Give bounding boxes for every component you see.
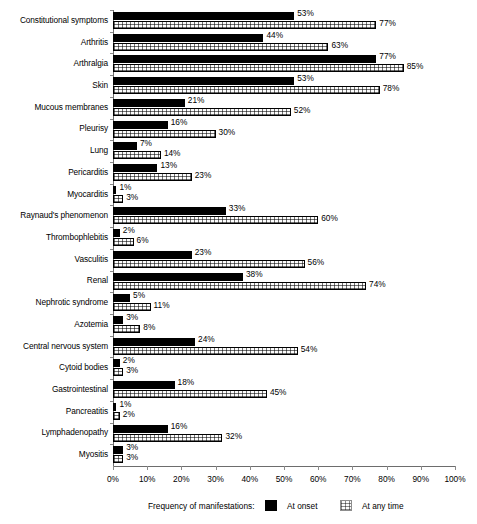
bar-value-label-at-onset: 77% bbox=[379, 52, 396, 61]
bar-value-label-at-onset: 23% bbox=[195, 248, 212, 257]
category-label: Pancreatitis bbox=[66, 407, 108, 416]
bar-at-onset bbox=[113, 381, 175, 389]
bar-at-any-time bbox=[113, 412, 120, 420]
bar-value-label-at-onset: 53% bbox=[297, 74, 314, 83]
bar-value-label-at-onset: 3% bbox=[126, 443, 138, 452]
category-label: Lung bbox=[90, 146, 108, 155]
category-label: Myocarditis bbox=[67, 190, 108, 199]
bar-at-any-time bbox=[113, 64, 404, 72]
bar-at-any-time bbox=[113, 303, 151, 311]
bar-at-onset bbox=[113, 99, 185, 107]
y-axis-tick bbox=[110, 271, 113, 272]
x-axis-tick bbox=[421, 466, 422, 470]
y-axis-tick bbox=[110, 140, 113, 141]
category-label: Skin bbox=[92, 81, 108, 90]
bar-value-label-at-any-time: 85% bbox=[407, 62, 424, 71]
bar-value-label-at-onset: 38% bbox=[246, 270, 263, 279]
legend-item-at-onset: At onset bbox=[287, 501, 317, 511]
category-label: Mucous membranes bbox=[34, 103, 108, 112]
bar-at-onset bbox=[113, 55, 376, 63]
x-axis-tick bbox=[147, 466, 148, 470]
bar-at-any-time bbox=[113, 43, 328, 51]
bar-at-onset bbox=[113, 273, 243, 281]
category-label: Central nervous system bbox=[23, 342, 108, 351]
bar-at-any-time bbox=[113, 108, 291, 116]
bar-at-onset bbox=[113, 142, 137, 150]
bar-at-any-time bbox=[113, 347, 298, 355]
bar-value-label-at-any-time: 14% bbox=[164, 149, 181, 158]
bar-value-label-at-any-time: 32% bbox=[225, 432, 242, 441]
bar-value-label-at-any-time: 52% bbox=[294, 106, 311, 115]
bar-value-label-at-any-time: 3% bbox=[126, 366, 138, 375]
bar-at-onset bbox=[113, 403, 116, 411]
x-axis-tick bbox=[387, 466, 388, 470]
x-axis-tick-label: 100% bbox=[435, 474, 475, 484]
y-axis-tick bbox=[110, 53, 113, 54]
category-label: Renal bbox=[87, 276, 108, 285]
x-axis-tick bbox=[250, 466, 251, 470]
bar-value-label-at-onset: 1% bbox=[119, 400, 131, 409]
plot-area: 53%77%44%63%77%85%53%78%21%52%16%30%7%14… bbox=[113, 10, 455, 466]
bar-value-label-at-any-time: 74% bbox=[369, 280, 386, 289]
bar-value-label-at-any-time: 30% bbox=[219, 128, 236, 137]
bar-at-onset bbox=[113, 229, 120, 237]
y-axis-tick bbox=[110, 423, 113, 424]
bar-at-onset bbox=[113, 359, 120, 367]
bar-at-onset bbox=[113, 121, 168, 129]
bar-value-label-at-onset: 53% bbox=[297, 9, 314, 18]
bar-value-label-at-any-time: 2% bbox=[123, 410, 135, 419]
bar-value-label-at-any-time: 45% bbox=[270, 388, 287, 397]
bar-at-any-time bbox=[113, 86, 380, 94]
bar-at-any-time bbox=[113, 21, 376, 29]
y-axis-tick bbox=[110, 75, 113, 76]
category-label: Thrombophlebitis bbox=[46, 233, 108, 242]
y-axis-tick bbox=[110, 227, 113, 228]
legend-title: Frequency of manifestations: bbox=[148, 501, 255, 511]
bar-value-label-at-any-time: 54% bbox=[301, 345, 318, 354]
x-axis-tick bbox=[216, 466, 217, 470]
bar-value-label-at-onset: 44% bbox=[266, 31, 283, 40]
bar-at-onset bbox=[113, 294, 130, 302]
bar-value-label-at-any-time: 6% bbox=[137, 236, 149, 245]
legend-item-at-any-time: At any time bbox=[362, 501, 404, 511]
bar-value-label-at-any-time: 11% bbox=[154, 301, 170, 310]
y-axis-tick bbox=[110, 119, 113, 120]
bar-value-label-at-onset: 18% bbox=[178, 378, 195, 387]
y-axis-tick bbox=[110, 205, 113, 206]
x-axis-tick bbox=[455, 466, 456, 470]
bar-value-label-at-any-time: 63% bbox=[331, 41, 348, 50]
bar-value-label-at-any-time: 60% bbox=[321, 214, 338, 223]
bar-value-label-at-any-time: 78% bbox=[383, 84, 400, 93]
bar-value-label-at-onset: 13% bbox=[160, 161, 177, 170]
category-label: Constitutional symptoms bbox=[20, 16, 108, 25]
x-axis-tick bbox=[284, 466, 285, 470]
bar-at-any-time bbox=[113, 282, 366, 290]
category-axis-labels: Constitutional symptomsArthritisArthralg… bbox=[0, 0, 108, 466]
y-axis-tick bbox=[110, 10, 113, 11]
y-axis-tick bbox=[110, 162, 113, 163]
bar-at-onset bbox=[113, 207, 226, 215]
bar-value-label-at-onset: 3% bbox=[126, 313, 138, 322]
bar-value-label-at-onset: 2% bbox=[123, 356, 135, 365]
y-axis-tick bbox=[110, 249, 113, 250]
dotted-pattern-swatch bbox=[340, 500, 352, 511]
y-axis-tick bbox=[110, 357, 113, 358]
category-label: Azotemia bbox=[74, 320, 108, 329]
bar-at-onset bbox=[113, 164, 157, 172]
x-axis-tick bbox=[113, 466, 114, 470]
solid-black-swatch bbox=[265, 500, 277, 511]
bar-at-any-time bbox=[113, 195, 123, 203]
bar-at-onset bbox=[113, 425, 168, 433]
category-label: Arthritis bbox=[81, 38, 108, 47]
category-label: Myositis bbox=[79, 450, 108, 459]
bar-at-any-time bbox=[113, 130, 216, 138]
bar-value-label-at-any-time: 3% bbox=[126, 193, 138, 202]
bar-at-any-time bbox=[113, 216, 318, 224]
bar-value-label-at-onset: 2% bbox=[123, 226, 135, 235]
bar-at-any-time bbox=[113, 238, 134, 246]
bar-at-onset bbox=[113, 251, 192, 259]
bar-at-any-time bbox=[113, 434, 222, 442]
chart-legend: Frequency of manifestations: At onset At… bbox=[0, 497, 477, 519]
bar-at-any-time bbox=[113, 455, 123, 463]
category-label: Gastrointestinal bbox=[52, 385, 108, 394]
